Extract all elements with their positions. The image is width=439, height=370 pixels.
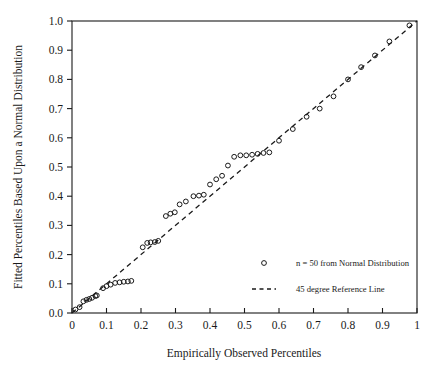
y-tick-label: 0.6 <box>49 132 64 144</box>
x-tick-label: 0.5 <box>237 319 252 331</box>
y-tick-label: 0.4 <box>49 190 64 202</box>
y-tick-label: 0.8 <box>49 73 64 85</box>
x-tick-label: 1 <box>414 319 420 331</box>
reference-line-45deg <box>72 21 417 313</box>
x-tick-label: 0.8 <box>341 319 356 331</box>
x-tick-label: 0.4 <box>203 319 218 331</box>
y-tick-label: 0.1 <box>49 278 64 290</box>
data-point <box>387 39 392 44</box>
x-axis-ticks <box>72 308 417 313</box>
data-point <box>208 182 213 187</box>
x-axis-title: Empirically Observed Percentiles <box>167 347 322 360</box>
legend-label: 45 degree Reference Line <box>296 284 385 294</box>
data-point <box>290 127 295 132</box>
data-points <box>73 23 412 312</box>
y-axis-tick-labels: 0.00.10.20.30.40.50.60.70.80.91.0 <box>49 15 64 319</box>
data-point <box>277 138 282 143</box>
data-point <box>177 202 182 207</box>
x-tick-label: 0.2 <box>134 319 149 331</box>
y-axis-title: Fitted Percentiles Based Upon a Normal D… <box>12 45 25 289</box>
y-tick-label: 0.5 <box>49 161 64 173</box>
x-tick-label: 0 <box>69 319 75 331</box>
data-point <box>140 245 145 250</box>
data-point <box>317 106 322 111</box>
x-tick-label: 0.9 <box>375 319 390 331</box>
qq-plot-chart: 00.10.20.30.40.50.60.70.80.91 0.00.10.20… <box>0 0 439 370</box>
legend-label: n = 50 from Normal Distribution <box>296 258 410 268</box>
chart-page: 00.10.20.30.40.50.60.70.80.91 0.00.10.20… <box>0 0 439 370</box>
y-tick-label: 0.2 <box>49 249 64 261</box>
x-tick-label: 0.3 <box>168 319 183 331</box>
reference-line <box>72 21 417 313</box>
y-tick-label: 0.0 <box>49 307 64 319</box>
x-tick-label: 0.1 <box>99 319 114 331</box>
data-point <box>201 192 206 197</box>
data-point <box>232 154 237 159</box>
data-point <box>244 153 249 158</box>
y-axis-ticks <box>67 21 72 313</box>
data-point <box>220 173 225 178</box>
data-point <box>261 151 266 156</box>
data-point <box>197 193 202 198</box>
data-point <box>238 153 243 158</box>
y-tick-label: 0.3 <box>49 219 64 231</box>
data-point <box>267 150 272 155</box>
data-point <box>129 278 134 283</box>
y-tick-label: 0.7 <box>49 103 64 115</box>
x-axis-tick-labels: 00.10.20.30.40.50.60.70.80.91 <box>69 319 420 331</box>
data-point <box>172 210 177 215</box>
y-tick-label: 1.0 <box>49 15 64 27</box>
x-tick-label: 0.6 <box>272 319 287 331</box>
legend-marker-circle <box>262 261 267 266</box>
data-point <box>214 177 219 182</box>
data-point <box>191 194 196 199</box>
x-tick-label: 0.7 <box>306 319 321 331</box>
data-point <box>183 199 188 204</box>
y-tick-label: 0.9 <box>49 44 64 56</box>
chart-legend: n = 50 from Normal Distribution45 degree… <box>252 258 410 294</box>
data-point <box>226 163 231 168</box>
data-point <box>250 152 255 157</box>
data-point <box>331 94 336 99</box>
